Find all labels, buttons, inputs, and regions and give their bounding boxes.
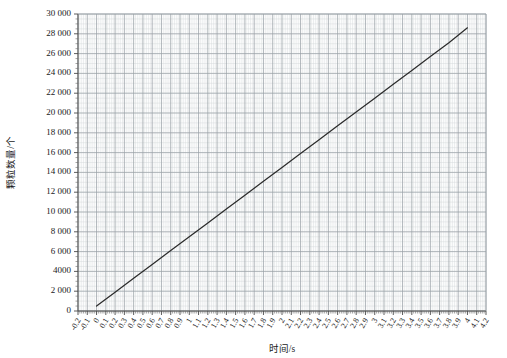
- y-axis-tick-label: 20 000: [46, 107, 71, 117]
- x-axis-title: 时间/s: [269, 343, 296, 354]
- line-chart: 02 00040006 0008 00010 00012 00014 00016…: [0, 0, 507, 358]
- x-axis-tick-label: 1.9: [265, 317, 278, 330]
- y-axis-tick-label: 16 000: [46, 147, 71, 157]
- x-axis-tick-label: 4.2: [478, 317, 491, 330]
- x-axis-tick-label: 0.9: [172, 317, 185, 330]
- y-axis-title: 颗粒数量/个: [5, 136, 16, 189]
- y-axis-tick-label: 26 000: [46, 48, 71, 58]
- y-axis-tick-label: 8 000: [51, 226, 72, 236]
- y-axis-tick-label: 12 000: [46, 186, 71, 196]
- y-axis-tick-label: 24 000: [46, 67, 71, 77]
- y-axis-tick-label: 2 000: [51, 285, 72, 295]
- chart-container: 02 00040006 0008 00010 00012 00014 00016…: [0, 0, 507, 358]
- y-axis-tick-label: 18 000: [46, 127, 71, 137]
- y-axis-tick-label: 6 000: [51, 246, 72, 256]
- y-axis-tick-label: 14 000: [46, 166, 71, 176]
- y-axis-tick-label: 30 000: [46, 8, 71, 18]
- y-axis-tick-label: 4000: [53, 265, 72, 275]
- y-axis-tick-label: 22 000: [46, 87, 71, 97]
- x-axis-tick-label: 2.9: [357, 317, 370, 330]
- x-axis-tick-label: -0.1: [78, 317, 92, 332]
- y-axis-tick-label: 10 000: [46, 206, 71, 216]
- x-axis-tick-label: 3.9: [450, 317, 463, 330]
- y-axis-tick-label: 0: [67, 305, 72, 315]
- y-axis-tick-label: 28 000: [46, 28, 71, 38]
